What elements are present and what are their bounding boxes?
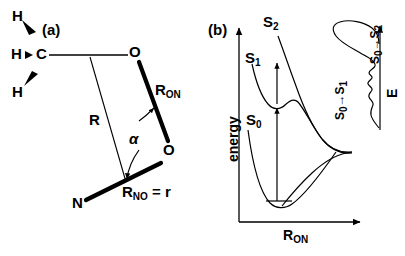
curve-s0 — [248, 130, 336, 208]
curve-dissociative-branch — [282, 152, 352, 206]
atom-hydrogen-bottom: H — [12, 84, 23, 99]
axis-label-ron-sub: ON — [293, 234, 308, 245]
bond-o-n-thick — [139, 62, 168, 141]
label-distance-r-base: R — [89, 111, 100, 128]
spectrum-label-s0-s2-base: S — [368, 56, 382, 64]
spectrum-label-s0-s1-base2: S — [333, 86, 347, 94]
spectrum-label-s0-s2-sub1: 0 — [373, 50, 384, 56]
label-distance-ron-sub: ON — [166, 89, 181, 100]
state-label-s1: S1 — [245, 50, 261, 68]
bond-wedge-h-left — [25, 51, 33, 59]
label-distance-ron-base: R — [155, 81, 166, 98]
spectrum-label-s0-s2-sub2: 2 — [373, 25, 384, 31]
label-distance-rno-suffix: = r — [148, 183, 171, 200]
spectrum-label-s0-s2: S0→S2 — [369, 25, 384, 64]
atom-hydrogen-top: H — [12, 8, 23, 23]
state-label-s0-base: S — [246, 111, 256, 128]
pointer-arrow-ron — [139, 108, 154, 121]
label-distance-r: R — [89, 112, 100, 127]
state-label-s1-sub: 1 — [255, 57, 261, 68]
spectrum-label-s0-s1-base: S — [333, 112, 347, 120]
atom-carbon: C — [36, 46, 47, 61]
spectrum-label-s0-s1-sub1: 0 — [338, 106, 349, 112]
axis-label-ron-base: R — [283, 227, 293, 243]
figure-root: (a) H H H C O O N R RON RNO = r α (b) en… — [0, 0, 405, 256]
panel-a-label: (a) — [42, 22, 60, 37]
spectrum-label-s0-s2-arrow: → — [368, 38, 382, 50]
panel-b-label: (b) — [208, 22, 227, 37]
spectrum-label-s0-s2-base2: S — [368, 30, 382, 38]
label-angle-alpha: α — [129, 131, 138, 146]
state-label-s2: S2 — [263, 14, 279, 32]
state-label-s0-sub: 0 — [256, 119, 262, 130]
axis-label-energy: energy — [226, 116, 240, 162]
bond-wedge-h-bottom — [24, 71, 38, 86]
spectrum-label-s0-s1-arrow: → — [333, 94, 347, 106]
spectrum-label-s0-s1: S0→S1 — [334, 81, 349, 120]
spectrum-label-s0-s1-sub2: 1 — [338, 81, 349, 87]
state-label-s0: S0 — [246, 112, 262, 130]
axis-label-ron: RON — [283, 228, 308, 245]
atom-hydrogen-left: H — [11, 46, 22, 61]
label-distance-rno-base: R — [122, 183, 133, 200]
label-distance-rno-sub: NO — [133, 191, 148, 202]
atom-oxygen-ester: O — [129, 44, 141, 59]
label-distance-rno: RNO = r — [122, 184, 171, 202]
state-label-s2-base: S — [263, 13, 273, 30]
bond-wedge-h-top — [22, 20, 36, 35]
state-label-s2-sub: 2 — [273, 21, 279, 32]
spectrum-axis-label-e: E — [385, 89, 399, 98]
label-distance-ron: RON — [155, 82, 181, 100]
atom-nitrogen: O — [163, 142, 175, 157]
figure-vector-layer — [0, 0, 405, 256]
atom-oxygen-nitroso: N — [72, 195, 83, 210]
state-label-s1-base: S — [245, 49, 255, 66]
